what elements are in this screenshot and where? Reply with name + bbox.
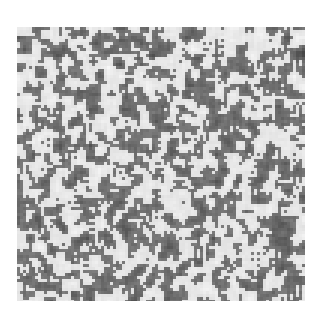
speckle-texture-canvas — [17, 27, 305, 301]
speckle-texture-square — [17, 27, 305, 301]
